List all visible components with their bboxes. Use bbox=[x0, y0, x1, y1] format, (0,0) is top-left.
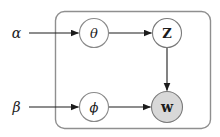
graphical-model-figure: θZϕwαβ bbox=[0, 0, 220, 137]
node-z-label: Z bbox=[162, 26, 172, 41]
node-theta-label: θ bbox=[90, 26, 98, 41]
node-w-label: w bbox=[160, 99, 174, 115]
label-alpha: α bbox=[12, 25, 22, 41]
diagram-canvas: θZϕwαβ bbox=[0, 0, 220, 137]
node-phi-label: ϕ bbox=[90, 100, 99, 115]
label-beta: β bbox=[11, 99, 20, 115]
plate-boundary bbox=[56, 12, 211, 129]
